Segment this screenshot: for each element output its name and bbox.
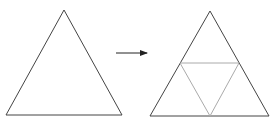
original-triangle bbox=[6, 10, 122, 115]
inner-midpoint-triangle bbox=[180, 63, 239, 116]
triangle-subdivision-diagram bbox=[0, 0, 272, 124]
